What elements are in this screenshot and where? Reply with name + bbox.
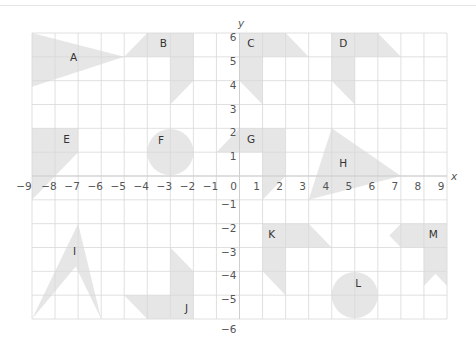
shape-j [124,248,193,320]
x-tick-label: −5 [110,180,125,192]
shape-label-j: J [184,302,188,314]
x-tick-label: −1 [203,180,218,192]
y-tick-label: −3 [221,246,236,258]
axes [32,33,447,319]
x-axis-label: x [450,170,458,182]
x-tick-label: −8 [41,180,56,192]
shape-label-f: F [158,134,164,146]
x-tick-label: 3 [299,180,306,192]
x-tick-label: 5 [345,180,352,192]
shape-label-d: D [339,37,347,49]
y-tick-label: 5 [230,55,237,67]
shape-label-b: B [160,37,167,49]
x-tick-label: 6 [368,180,375,192]
shape-label-m: M [429,228,438,240]
x-tick-label: 8 [415,180,422,192]
shape-label-a: A [70,51,78,63]
y-tick-label: −2 [221,222,236,234]
y-tick-label: 3 [230,103,237,115]
y-tick-label: 6 [230,31,237,43]
y-axis-label: y [237,17,245,29]
x-tick-label: 1 [253,180,260,192]
tick-labels: −9−8−7−6−5−4−3−2−10123456789654321−1−2−3… [16,31,444,335]
x-tick-label: 2 [276,180,283,192]
shape-label-k: K [268,228,276,240]
y-tick-label: 2 [230,126,237,138]
y-tick-label: 4 [230,79,237,91]
x-tick-label: 0 [230,180,237,192]
x-tick-label: −7 [64,180,79,192]
x-tick-label: −4 [134,180,150,192]
x-tick-label: −9 [16,180,31,192]
y-tick-label: −1 [221,198,236,210]
x-tick-label: 7 [392,180,399,192]
shape-label-g: G [247,133,255,145]
coordinate-grid-diagram: −9−8−7−6−5−4−3−2−10123456789654321−1−2−3… [0,0,476,343]
shape-b [124,33,193,105]
shape-label-h: H [339,157,347,169]
y-tick-label: −6 [221,323,237,335]
x-tick-label: 9 [438,180,445,192]
y-tick-label: −4 [221,269,237,281]
shape-label-l: L [355,277,361,289]
shape-label-e: E [63,133,70,145]
x-tick-label: −6 [87,180,103,192]
y-tick-label: −5 [221,293,236,305]
shape-label-i: I [73,245,76,257]
y-tick-label: 1 [230,150,237,162]
x-tick-label: −3 [157,180,172,192]
shape-m [389,224,447,286]
x-tick-label: −2 [180,180,195,192]
x-tick-label: 4 [322,180,329,192]
shape-label-c: C [247,37,254,49]
